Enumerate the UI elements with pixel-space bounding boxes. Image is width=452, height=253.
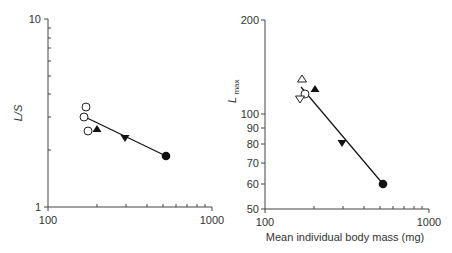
left-y-axis-label: L/S: [12, 104, 24, 121]
open-triangle-up-marker: [298, 75, 307, 82]
left-x-tick-label-1000: 1000: [200, 214, 224, 226]
left-panel: 10 1 100 1000 L/S: [12, 13, 224, 226]
right-x-tick-label-100: 100: [256, 216, 274, 228]
right-y-axis-label-main: L: [226, 97, 238, 103]
right-y-axis-label-sub: max: [232, 79, 241, 94]
left-x-tick-label-100: 100: [39, 214, 57, 226]
filled-circle-marker: [162, 152, 171, 161]
open-circle-marker: [80, 113, 88, 121]
right-panel: 200 100 90 80 70 60 50 100 1000 Mean ind…: [226, 14, 441, 243]
right-y-tick-label-60: 60: [247, 178, 259, 190]
right-fit-line: [301, 87, 383, 184]
right-y-tick-label-50: 50: [247, 203, 259, 215]
right-x-axis-label: Mean individual body mass (mg): [266, 231, 424, 243]
filled-triangle-up-marker: [93, 125, 102, 132]
right-x-tick-label-1000: 1000: [417, 216, 441, 228]
open-circle-marker: [84, 127, 92, 135]
right-y-tick-label-80: 80: [247, 138, 259, 150]
left-y-tick-label-10: 10: [29, 13, 41, 25]
filled-triangle-down-marker: [121, 135, 130, 142]
right-y-tick-label-100: 100: [241, 108, 259, 120]
filled-triangle-down-marker: [338, 140, 347, 147]
filled-triangle-up-marker: [311, 85, 320, 92]
filled-circle-marker: [379, 180, 388, 189]
right-y-ticks: [261, 20, 265, 209]
right-y-tick-label-200: 200: [241, 14, 259, 26]
right-y-tick-label-90: 90: [247, 122, 259, 134]
figure: 10 1 100 1000 L/S: [0, 0, 452, 253]
open-circle-marker: [82, 103, 90, 111]
left-y-tick-label-1: 1: [35, 201, 41, 213]
right-y-axis-label: L max: [226, 79, 241, 103]
right-y-tick-label-70: 70: [247, 157, 259, 169]
open-triangle-down-marker: [296, 96, 305, 103]
